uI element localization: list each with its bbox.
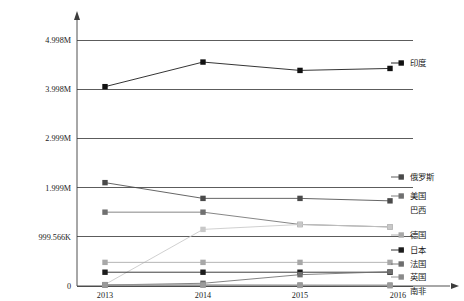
data-point-marker — [200, 209, 205, 214]
y-tick-label: 1.999M — [45, 184, 71, 193]
data-point-marker — [297, 260, 302, 265]
legend-entry-label: 日本 — [410, 245, 427, 255]
x-axis-arrow-icon — [451, 283, 459, 289]
legend-entry-label: 巴西 — [410, 205, 426, 215]
series-layer — [102, 59, 392, 288]
legend-marker-swatch — [399, 261, 404, 266]
y-tick-label: 0 — [67, 282, 71, 291]
legend-entry-label: 印度 — [410, 58, 427, 68]
legend-marker-swatch — [399, 274, 404, 279]
data-point-marker — [200, 270, 205, 275]
data-point-marker — [102, 209, 107, 214]
data-point-marker — [297, 196, 302, 201]
data-point-marker — [102, 180, 107, 185]
y-tick-label: 3.998M — [45, 85, 71, 94]
series-line-3 — [105, 224, 390, 284]
data-point-marker — [387, 66, 392, 71]
line-chart: 0999.566K1.999M2.999M3.998M4.998M 201320… — [0, 0, 464, 301]
data-point-marker — [102, 282, 107, 287]
data-point-marker — [102, 84, 107, 89]
series-line-0 — [105, 62, 390, 87]
x-tick-label: 2016 — [390, 291, 406, 300]
data-point-marker — [297, 222, 302, 227]
legend-marker-swatch — [399, 232, 404, 237]
y-axis-arrow-icon — [74, 11, 80, 20]
y-tick-label: 2.999M — [45, 134, 71, 143]
data-point-marker — [387, 198, 392, 203]
data-point-marker — [387, 283, 392, 288]
data-point-marker — [297, 283, 302, 288]
data-point-marker — [297, 272, 302, 277]
chart-legend: 印度俄罗斯美国巴西德国日本法国英国南非 — [391, 58, 435, 296]
legend-marker-swatch — [399, 174, 404, 179]
gridlines — [77, 40, 413, 286]
data-point-marker — [200, 196, 205, 201]
series-line-6 — [105, 272, 390, 285]
data-point-marker — [387, 224, 392, 229]
legend-entry-label: 德国 — [410, 230, 426, 240]
legend-entry-label: 美国 — [410, 191, 426, 201]
x-axis-tick-labels: 2013201420152016 — [97, 291, 406, 300]
series-line-1 — [105, 183, 390, 201]
data-point-marker — [387, 269, 392, 274]
chart-canvas: 0999.566K1.999M2.999M3.998M4.998M 201320… — [0, 0, 464, 301]
legend-marker-swatch — [399, 247, 404, 252]
data-point-marker — [200, 59, 205, 64]
data-point-marker — [200, 260, 205, 265]
legend-marker-swatch — [399, 60, 404, 65]
legend-entry-label: 俄罗斯 — [410, 172, 435, 182]
legend-marker-swatch — [399, 193, 404, 198]
data-point-marker — [297, 68, 302, 73]
y-axis-tick-labels: 0999.566K1.999M2.999M3.998M4.998M — [38, 36, 71, 291]
legend-entry-label: 南非 — [410, 286, 427, 296]
data-point-marker — [200, 227, 205, 232]
y-tick-label: 999.566K — [38, 233, 71, 242]
series-line-2 — [105, 212, 390, 227]
x-tick-label: 2015 — [292, 291, 308, 300]
data-point-marker — [102, 260, 107, 265]
y-tick-label: 4.998M — [45, 36, 71, 45]
x-tick-label: 2013 — [97, 291, 113, 300]
legend-entry-label: 法国 — [410, 259, 426, 269]
data-point-marker — [102, 270, 107, 275]
data-point-marker — [200, 282, 205, 287]
x-tick-label: 2014 — [195, 291, 211, 300]
legend-entry-label: 英国 — [410, 272, 426, 282]
